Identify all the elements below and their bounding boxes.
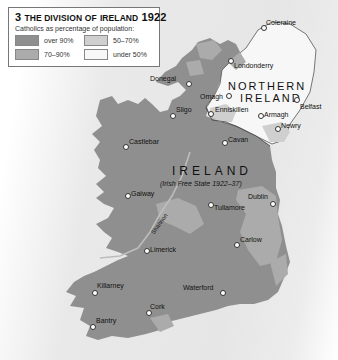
legend-label: 50–70% [113, 37, 139, 44]
city-marker-dublin [270, 201, 276, 207]
swatch-over-90 [15, 35, 39, 46]
legend-title-prefix: The division of [24, 13, 96, 23]
city-label-donegal: Donegal [150, 75, 176, 82]
city-marker-killarney [92, 290, 98, 296]
city-marker-sligo [170, 113, 176, 119]
city-label-galway: Galway [131, 190, 154, 197]
city-label-newry: Newry [281, 122, 301, 129]
city-marker-cork [146, 310, 152, 316]
city-marker-enniskillen [208, 111, 214, 117]
label-northern-ireland-2: IRELAND [240, 92, 302, 104]
city-label-cavan: Cavan [228, 136, 248, 143]
city-label-killarney: Killarney [97, 282, 124, 289]
city-marker-bantry [90, 324, 96, 330]
city-label-castlebar: Castlebar [129, 138, 159, 145]
city-label-coleraine: Coleraine [266, 19, 296, 26]
legend-number: 3 [15, 11, 21, 23]
legend-subtitle: Catholics as percentage of population: [15, 25, 153, 32]
city-label-limerick: Limerick [150, 246, 176, 253]
city-label-enniskillen: Enniskillen [215, 106, 248, 113]
city-label-carlow: Carlow [240, 236, 262, 243]
city-label-cork: Cork [150, 303, 165, 310]
city-label-bantry: Bantry [96, 317, 116, 324]
legend-item-50-70: 50–70% [84, 35, 153, 46]
swatch-50-70 [84, 35, 108, 46]
label-irish-free-state: (Irish Free State 1922–37) [160, 180, 242, 187]
city-label-armagh: Armagh [264, 111, 289, 118]
city-label-londonderry: Londonderry [234, 62, 273, 69]
swatch-70-90 [15, 49, 39, 60]
legend-item-under-50: under 50% [84, 49, 153, 60]
city-label-sligo: Sligo [176, 106, 192, 113]
legend-grid: over 90% 50–70% 70–90% under 50% [15, 35, 153, 60]
city-marker-omagh [226, 93, 232, 99]
legend-label: under 50% [113, 51, 147, 58]
map-legend: 3 The division of Ireland 1922 Catholics… [8, 7, 160, 67]
legend-label: over 90% [44, 37, 74, 44]
city-label-tullamore: Tullamore [214, 204, 245, 211]
legend-title-place: Ireland [100, 13, 138, 23]
city-marker-waterford [220, 290, 226, 296]
city-label-belfast: Belfast [300, 103, 321, 110]
city-marker-donegal [186, 81, 192, 87]
legend-item-70-90: 70–90% [15, 49, 84, 60]
legend-title: 3 The division of Ireland 1922 [15, 11, 153, 23]
legend-label: 70–90% [44, 51, 70, 58]
label-ireland: IRELAND [172, 164, 252, 178]
swatch-under-50 [84, 49, 108, 60]
label-northern-ireland-1: NORTHERN [228, 80, 306, 92]
city-label-omagh: Omagh [200, 93, 223, 100]
city-label-waterford: Waterford [183, 284, 213, 291]
legend-title-year: 1922 [142, 11, 167, 23]
city-label-dublin: Dublin [248, 193, 268, 200]
legend-item-over-90: over 90% [15, 35, 84, 46]
